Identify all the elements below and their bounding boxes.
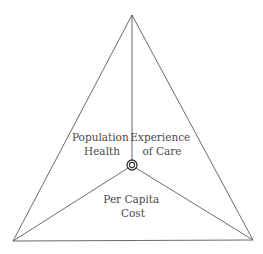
target-icon — [127, 160, 137, 170]
label-per-capita-cost: Per Capita Cost — [103, 193, 162, 219]
label-line: of Care — [142, 145, 181, 157]
label-line: Experience — [130, 131, 190, 143]
triple-aim-diagram: Population Health Experience of Care Per… — [0, 0, 263, 254]
label-line: Population — [72, 131, 129, 143]
label-line: Per Capita — [103, 193, 159, 205]
label-population-health: Population Health — [72, 131, 132, 157]
label-experience-of-care: Experience of Care — [130, 131, 193, 157]
label-line: Cost — [121, 207, 146, 219]
label-line: Health — [84, 145, 120, 157]
